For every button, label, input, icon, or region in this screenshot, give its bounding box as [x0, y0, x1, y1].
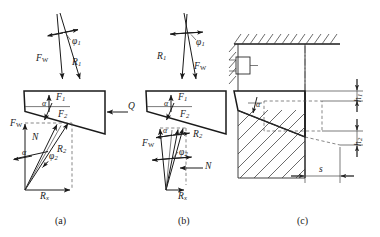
label-b-fw-bottom: FW	[142, 139, 154, 149]
label-b-fw-top: FW	[194, 62, 206, 72]
label-b-phi1: φ1	[196, 38, 205, 48]
label-a-fw-bottom: FW	[10, 119, 22, 129]
label-b-alpha-poly: α	[163, 126, 167, 135]
caption-panel-c: (c)	[297, 215, 308, 226]
label-a-phi2: φ2	[49, 152, 58, 162]
panel-c-linework	[229, 34, 363, 183]
panel-a-linework	[14, 13, 129, 190]
label-c-alpha: α	[256, 100, 260, 109]
figure-linework	[0, 0, 380, 237]
label-b-rx: Rx	[178, 192, 187, 202]
label-a-f2: F2	[58, 110, 67, 120]
caption-panel-a: (a)	[55, 215, 66, 226]
label-a-alpha-wedge: α	[42, 99, 46, 108]
label-a-phi1: φ1	[72, 37, 81, 47]
label-a-q: Q	[128, 102, 135, 112]
label-b-phi2: φ2	[179, 148, 188, 158]
label-a-n: N	[32, 133, 38, 143]
label-c-s: s	[319, 165, 323, 175]
caption-panel-b: (b)	[178, 215, 190, 226]
label-b-f2: F2	[180, 110, 189, 120]
label-b-r1: R1	[157, 52, 166, 62]
label-b-f1: F1	[178, 93, 187, 103]
label-c-h2: h2	[354, 138, 364, 146]
label-b-n: N	[205, 162, 211, 172]
label-a-r1: R1	[72, 58, 81, 68]
figure-canvas: φ1 FW R1 F1 F2 Q α FW N α R2 φ2 Rx φ1 R1…	[0, 0, 380, 237]
label-b-alpha-wedge: α	[164, 99, 168, 108]
label-a-alpha-poly: α	[22, 148, 26, 157]
label-a-rx: Rx	[40, 192, 49, 202]
label-a-fw-top: FW	[36, 54, 48, 64]
label-c-h1: h1	[354, 94, 364, 102]
label-b-r2: R2	[193, 130, 202, 140]
label-a-r2: R2	[57, 145, 66, 155]
label-a-f1: F1	[56, 93, 65, 103]
